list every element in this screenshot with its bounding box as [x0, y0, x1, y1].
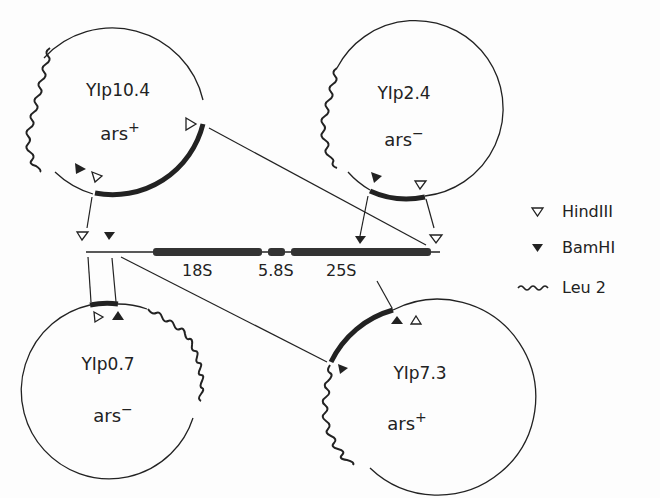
bamhi-filled-triangle-icon — [391, 316, 403, 324]
plasmid-name-label: YIp2.4 — [376, 83, 430, 103]
connector-lines — [87, 128, 434, 245]
bamhi-filled-triangle-icon — [371, 172, 382, 183]
legend-item-bamhi: BamHI — [532, 238, 615, 257]
connector-line — [87, 197, 92, 228]
legend-item-hindiii: HindIII — [532, 202, 613, 221]
plasmid-yip7-3: YIp7.3 ars+ — [323, 299, 536, 495]
ars-status-label: ars− — [93, 401, 133, 426]
diagram-svg: YIp10.4 ars+ YIp2.4 ars− 18S 5.8S 25S — [0, 0, 660, 498]
bamhi-filled-triangle-icon — [75, 163, 86, 174]
gene-block-25s — [291, 248, 431, 256]
plasmid-yip2-4: YIp2.4 ars− — [321, 21, 503, 199]
legend-label: Leu 2 — [562, 278, 606, 297]
open-triangle-icon — [532, 208, 543, 216]
connector-line — [377, 281, 392, 308]
leu2-wavy-segment — [148, 309, 203, 401]
plasmid-backbone — [55, 172, 93, 194]
plasmid-backbone — [21, 305, 193, 479]
hindiii-open-triangle-icon — [186, 118, 196, 130]
legend: HindIII BamHI Leu 2 — [518, 202, 615, 297]
hindiii-open-triangle-icon — [92, 172, 102, 182]
gene-block-5-8s — [268, 248, 285, 256]
bamhi-filled-triangle-icon — [104, 232, 115, 240]
hindiii-open-triangle-icon — [415, 181, 426, 189]
gene-label-5-8s: 5.8S — [258, 261, 294, 280]
leu2-wavy-segment — [323, 365, 354, 465]
rdna-insert-arc — [331, 310, 393, 362]
legend-label: HindIII — [562, 202, 613, 221]
plasmid-backbone — [337, 21, 503, 196]
bamhi-filled-triangle-icon — [338, 364, 348, 374]
connector-line — [88, 257, 91, 302]
plasmid-yip0-7: YIp0.7 ars− — [21, 303, 203, 479]
connector-line — [360, 196, 368, 236]
hindiii-open-triangle-icon — [77, 232, 88, 240]
connector-line — [426, 199, 434, 228]
plasmid-backbone — [118, 304, 147, 309]
plasmid-backbone — [348, 172, 370, 190]
connector-line — [112, 258, 116, 302]
legend-label: BamHI — [562, 238, 615, 257]
leu2-wavy-segment — [26, 48, 50, 172]
bamhi-filled-triangle-icon — [112, 311, 124, 320]
ars-status-label: ars− — [384, 125, 424, 150]
gene-label-18s: 18S — [182, 261, 213, 280]
ars-status-label: ars+ — [387, 409, 427, 434]
legend-item-leu2: Leu 2 — [518, 278, 606, 297]
plasmid-name-label: YIp10.4 — [85, 80, 150, 100]
plasmid-name-label: YIp7.3 — [392, 363, 446, 383]
filled-triangle-icon — [532, 244, 543, 252]
gene-label-25s: 25S — [326, 261, 357, 280]
wavy-line-icon — [518, 286, 548, 290]
ars-status-label: ars+ — [100, 119, 140, 144]
bamhi-filled-triangle-icon — [355, 236, 366, 244]
rdna-insert-arc — [90, 303, 118, 305]
hindiii-open-triangle-icon — [430, 235, 442, 243]
figure-canvas: YIp10.4 ars+ YIp2.4 ars− 18S 5.8S 25S — [0, 0, 660, 498]
rdna-insert-arc — [370, 191, 425, 199]
plasmid-yip10-4: YIp10.4 ars+ — [26, 28, 203, 195]
plasmid-backbone — [370, 299, 536, 495]
leu2-wavy-segment — [321, 68, 337, 168]
plasmid-name-label: YIp0.7 — [80, 354, 134, 374]
hindiii-open-triangle-icon — [411, 316, 421, 324]
gene-block-18s — [153, 248, 262, 256]
connector-line — [121, 257, 327, 362]
rdna-map: 18S 5.8S 25S — [77, 232, 442, 280]
hindiii-open-triangle-icon — [94, 312, 103, 322]
